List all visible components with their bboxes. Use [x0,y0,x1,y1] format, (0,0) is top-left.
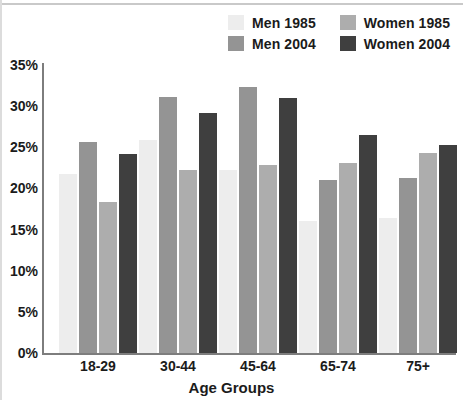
legend-item[interactable]: Men 1985 [228,12,322,33]
chart-legend: Men 1985Women 1985Men 2004Women 2004 [228,12,456,54]
bar[interactable] [299,221,317,353]
bar-group [379,65,459,353]
y-axis-tick-label: 0% [2,345,38,361]
bar[interactable] [219,170,237,353]
y-axis-tick-label: 35% [2,57,38,73]
plot-area [43,65,455,353]
bar[interactable] [439,145,457,353]
x-axis-tick-label: 18-29 [80,358,116,374]
bar[interactable] [399,178,417,353]
legend-item-label: Men 1985 [252,15,316,31]
legend-item-label: Women 2004 [364,36,450,52]
bar[interactable] [139,140,157,353]
legend-swatch-icon [340,15,356,30]
legend-item-label: Women 1985 [364,15,450,31]
bar[interactable] [359,135,377,353]
y-axis-tick-label: 5% [2,304,38,320]
legend-swatch-icon [228,36,244,51]
bar[interactable] [279,98,297,353]
bar-group [139,65,219,353]
y-axis-tick-label: 25% [2,139,38,155]
y-axis-tick-labels: 0%5%10%15%20%25%30%35% [0,65,38,353]
legend-item-label: Men 2004 [252,36,316,52]
bar-group [219,65,299,353]
bar[interactable] [259,165,277,353]
x-axis-tick-label: 30-44 [160,358,196,374]
y-axis-line [42,63,44,355]
legend-item[interactable]: Men 2004 [228,33,322,54]
x-axis-tick-labels: 18-2930-4445-6465-7475+ [43,358,455,380]
y-axis-tick-label: 15% [2,222,38,238]
bar[interactable] [99,202,117,353]
legend-item[interactable]: Women 1985 [340,12,456,33]
legend-swatch-icon [340,36,356,51]
y-axis-tick-label: 20% [2,180,38,196]
bar[interactable] [379,218,397,353]
bar[interactable] [159,97,177,353]
bar-group [59,65,139,353]
legend-item[interactable]: Women 2004 [340,33,456,54]
x-axis-tick-label: 65-74 [320,358,356,374]
bar-chart: Men 1985Women 1985Men 2004Women 2004 0%5… [0,0,463,400]
x-axis-tick-label: 45-64 [240,358,276,374]
bar[interactable] [179,170,197,353]
x-axis-tick-label: 75+ [406,358,430,374]
bar-group [299,65,379,353]
top-rule-decoration [0,3,463,5]
y-axis-tick-label: 10% [2,263,38,279]
x-axis-line [42,353,456,355]
bar[interactable] [59,174,77,353]
bar[interactable] [239,87,257,353]
bar[interactable] [419,153,437,353]
bar[interactable] [319,180,337,353]
bar[interactable] [79,142,97,353]
legend-swatch-icon [228,15,244,30]
bar[interactable] [339,163,357,353]
y-axis-tick-label: 30% [2,98,38,114]
x-axis-title: Age Groups [0,379,463,396]
bar[interactable] [199,113,217,353]
bar[interactable] [119,154,137,353]
